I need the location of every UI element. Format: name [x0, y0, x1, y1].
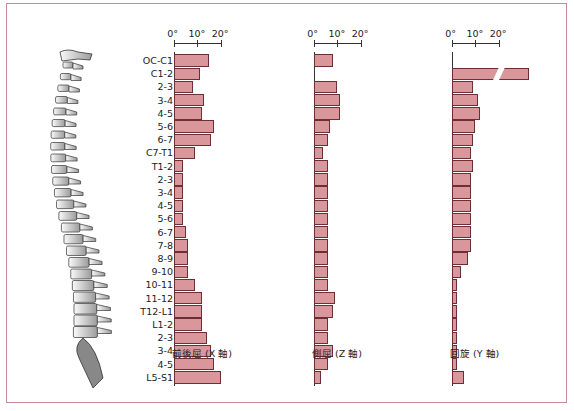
x-axis-tick	[197, 40, 198, 47]
segment-label: 8-9	[157, 252, 173, 265]
bar-3-4	[314, 94, 340, 106]
segment-label: 10-11	[145, 278, 173, 291]
bar-4-5	[174, 107, 202, 119]
segment-label: 6-7	[157, 133, 173, 146]
panel-caption: 回旋 (Y 軸)	[450, 346, 499, 360]
bar-l5-s1	[314, 371, 321, 383]
x-axis-tick	[475, 40, 476, 47]
x-axis-tick-label: 20°	[352, 28, 369, 39]
x-axis-tick-label: 0°	[167, 28, 178, 39]
x-axis-tick-label: 10°	[188, 28, 205, 39]
segment-label: 2-3	[157, 331, 173, 344]
bar-c1-2	[174, 68, 200, 80]
segment-label: T12-L1	[140, 305, 173, 318]
bar-5-6	[452, 213, 471, 225]
bar-6-7	[314, 134, 328, 146]
bar-9-10	[314, 266, 328, 278]
bar-2-3	[314, 173, 328, 185]
segment-label: L5-S1	[146, 371, 173, 384]
bar-6-7	[174, 226, 186, 238]
x-axis-tick	[314, 40, 315, 47]
bar-11-12	[452, 292, 457, 304]
segment-label: C7-T1	[146, 146, 173, 159]
segment-label: 11-12	[145, 292, 173, 305]
bar-l5-s1	[452, 371, 464, 383]
x-axis-tick-label: 10°	[466, 28, 483, 39]
bar-5-6	[174, 213, 183, 225]
bar-9-10	[174, 266, 188, 278]
spine-illustration-icon	[28, 48, 118, 388]
bar-8-9	[174, 252, 188, 264]
segment-label: 5-6	[157, 120, 173, 133]
bar-2-3	[452, 332, 457, 344]
bar-t12-l1	[174, 305, 202, 317]
bar-t1-2	[452, 160, 473, 172]
segment-label: OC-C1	[143, 54, 173, 67]
bar-8-9	[314, 252, 328, 264]
bar-6-7	[314, 226, 328, 238]
bar-3-4	[452, 186, 471, 198]
bar-7-8	[314, 239, 328, 251]
bar-5-6	[314, 213, 328, 225]
segment-label: 4-5	[157, 199, 173, 212]
bar-11-12	[314, 292, 335, 304]
bar-2-3	[314, 332, 328, 344]
segment-label: 9-10	[151, 265, 173, 278]
bar-t12-l1	[314, 305, 333, 317]
bar-10-11	[174, 279, 195, 291]
segment-label: 4-5	[157, 358, 173, 371]
bar-7-8	[174, 239, 188, 251]
bar-l5-s1	[174, 371, 221, 383]
bar-2-3	[314, 81, 337, 93]
bar-9-10	[452, 266, 461, 278]
bar-l1-2	[314, 318, 328, 330]
bar-7-8	[452, 239, 471, 251]
bar-t12-l1	[452, 305, 457, 317]
segment-label: 7-8	[157, 239, 173, 252]
bar-oc-c1	[174, 54, 209, 66]
bar-4-5	[452, 107, 480, 119]
segment-label: 5-6	[157, 212, 173, 225]
bar-c7-t1	[452, 147, 471, 159]
x-axis-tick-label: 20°	[490, 28, 507, 39]
bar-c1-2	[452, 68, 529, 80]
x-axis-tick-label: 20°	[212, 28, 229, 39]
bar-2-3	[452, 81, 473, 93]
bar-6-7	[174, 134, 211, 146]
segment-label: T1-2	[152, 160, 173, 173]
x-axis-tick	[337, 40, 338, 47]
bar-2-3	[452, 173, 471, 185]
bar-5-6	[314, 120, 330, 132]
bar-4-5	[452, 200, 471, 212]
bar-l1-2	[452, 318, 457, 330]
x-axis-tick-label: 10°	[328, 28, 345, 39]
segment-label: 3-4	[157, 94, 173, 107]
bar-l1-2	[174, 318, 202, 330]
segment-label: 3-4	[157, 186, 173, 199]
segment-label: 4-5	[157, 107, 173, 120]
bar-11-12	[174, 292, 202, 304]
x-axis-tick	[452, 40, 453, 47]
x-axis-tick	[499, 40, 500, 47]
bar-c7-t1	[314, 147, 323, 159]
bar-2-3	[174, 332, 207, 344]
bar-5-6	[174, 120, 214, 132]
bar-6-7	[452, 134, 473, 146]
panel-caption: 側屈 (Z 軸)	[312, 346, 362, 360]
segment-label: C1-2	[151, 67, 173, 80]
x-axis-tick	[361, 40, 362, 47]
bar-2-3	[174, 81, 193, 93]
bar-10-11	[452, 279, 457, 291]
bar-6-7	[452, 226, 471, 238]
segment-label: 6-7	[157, 226, 173, 239]
bar-4-5	[314, 107, 340, 119]
bar-8-9	[452, 252, 468, 264]
bar-3-4	[314, 186, 328, 198]
bar-4-5	[314, 200, 328, 212]
segment-label: 2-3	[157, 173, 173, 186]
segment-label: 3-4	[157, 344, 173, 357]
bar-3-4	[174, 186, 183, 198]
bar-t1-2	[314, 160, 328, 172]
x-axis-tick-label: 0°	[307, 28, 318, 39]
bar-2-3	[174, 173, 183, 185]
